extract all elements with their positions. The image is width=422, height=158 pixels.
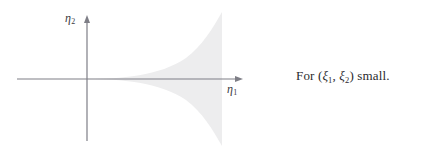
y-axis-label: η2 bbox=[65, 12, 75, 26]
x-axis-label: η1 bbox=[227, 83, 237, 97]
caption-prefix: For ( bbox=[296, 68, 322, 83]
plot-panel: η2 η1 bbox=[0, 0, 260, 158]
plot-canvas bbox=[0, 0, 260, 158]
y-axis-arrowhead bbox=[84, 15, 90, 23]
y-axis-label-subscript: 2 bbox=[71, 17, 75, 26]
caption-suffix: ) small. bbox=[349, 68, 389, 83]
figure-caption: For (ξ1, ξ2) small. bbox=[296, 68, 390, 85]
x-axis-label-subscript: 1 bbox=[233, 88, 237, 97]
figure-root: η2 η1 For (ξ1, ξ2) small. bbox=[0, 0, 422, 158]
x-axis-arrowhead bbox=[235, 76, 243, 82]
